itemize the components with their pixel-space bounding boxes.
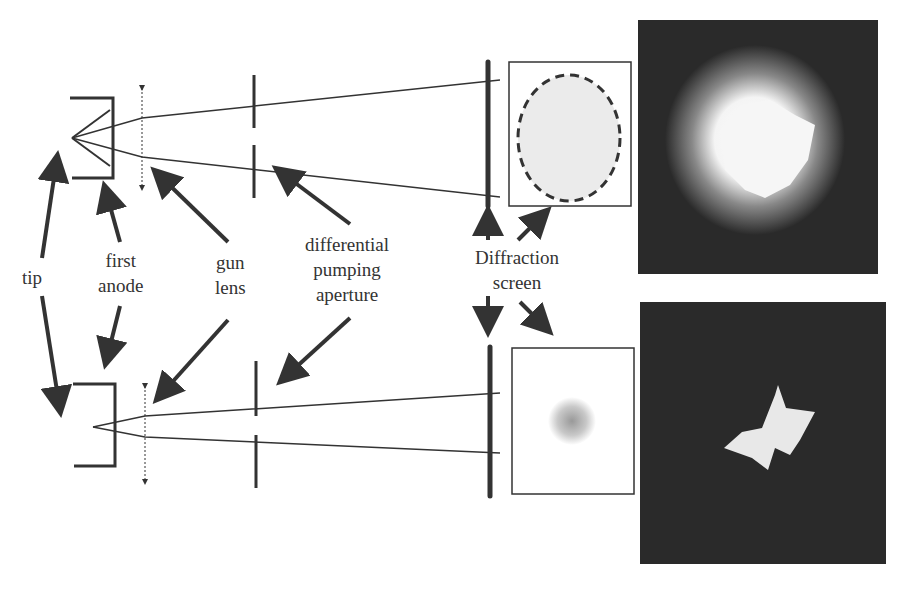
top-gun <box>70 62 631 206</box>
label-gun-lens: gun lens <box>215 250 246 300</box>
label-first-anode: first anode <box>98 248 143 298</box>
label-tip: tip <box>22 265 42 290</box>
bottom-gun <box>73 347 634 496</box>
label-differential-pumping-aperture: differential pumping aperture <box>305 232 389 307</box>
label-diffraction-screen: Diffraction screen <box>475 245 559 295</box>
